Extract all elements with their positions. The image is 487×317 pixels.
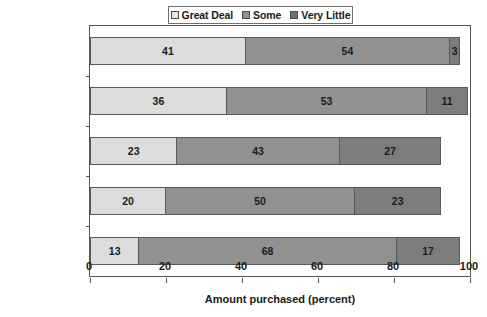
bar-value-label: 3 (452, 45, 458, 57)
x-axis-tick (166, 278, 167, 283)
bar-row-fl-distributor: 365311 (90, 87, 467, 115)
stacked-bar-chart-figure: Great Deal Some Very Little 415433653112… (0, 0, 487, 317)
x-axis-tick (394, 278, 395, 283)
bar-segment-golf-supt-very-little: 17 (396, 237, 461, 265)
x-axis-title: Amount purchased (percent) (89, 293, 471, 305)
legend-swatch-great-deal (171, 11, 179, 19)
legend-item-very-little: Very Little (290, 9, 350, 21)
bar-row-ca-grower: 234327 (90, 137, 440, 165)
legend-item-great-deal: Great Deal (171, 9, 234, 21)
x-axis-tick-label: 0 (86, 260, 92, 272)
legend-swatch-some (242, 11, 250, 19)
legend-label-great-deal: Great Deal (182, 9, 234, 21)
plot-inner: 41543365311234327205023136817 (90, 26, 470, 276)
x-axis-tick-label: 60 (311, 260, 323, 272)
bar-row-golf-supt: 136817 (90, 237, 459, 265)
y-axis-tick (86, 126, 90, 127)
bar-segment-golf-supt-great-deal: 13 (90, 237, 139, 265)
legend-label-very-little: Very Little (301, 9, 350, 21)
bar-segment-fl-distributor-very-little: 11 (426, 87, 468, 115)
bar-segment-fl-grower-very-little: 23 (354, 187, 441, 215)
y-axis-tick (86, 226, 90, 227)
x-axis-tick (470, 278, 471, 283)
bar-segment-ca-pca-some: 54 (245, 37, 450, 65)
legend-label-some: Some (253, 9, 281, 21)
bar-row-fl-grower: 205023 (90, 187, 440, 215)
bar-segment-ca-pca-great-deal: 41 (90, 37, 246, 65)
bar-segment-ca-grower-great-deal: 23 (90, 137, 177, 165)
x-axis-tick (242, 278, 243, 283)
bar-value-label: 53 (321, 95, 333, 107)
legend-item-some: Some (242, 9, 281, 21)
bar-value-label: 23 (128, 145, 140, 157)
bar-value-label: 23 (392, 195, 404, 207)
x-axis-tick-label: 100 (460, 260, 478, 272)
x-axis-tick-label: 80 (387, 260, 399, 272)
plot-area: 41543365311234327205023136817 (89, 25, 471, 277)
bar-value-label: 17 (422, 245, 434, 257)
x-axis-tick (90, 278, 91, 283)
bar-value-label: 20 (122, 195, 134, 207)
bar-value-label: 68 (262, 245, 274, 257)
bar-value-label: 11 (442, 95, 453, 107)
bar-value-label: 54 (342, 45, 354, 57)
bar-value-label: 50 (254, 195, 266, 207)
bar-segment-ca-grower-very-little: 27 (339, 137, 442, 165)
legend-swatch-very-little (290, 11, 298, 19)
bar-segment-fl-grower-great-deal: 20 (90, 187, 166, 215)
bar-segment-fl-distributor-great-deal: 36 (90, 87, 227, 115)
bar-value-label: 27 (384, 145, 396, 157)
bar-segment-fl-distributor-some: 53 (226, 87, 427, 115)
y-axis-tick (86, 76, 90, 77)
y-axis-tick (86, 176, 90, 177)
bar-segment-ca-pca-very-little: 3 (449, 37, 460, 65)
bar-segment-fl-grower-some: 50 (165, 187, 355, 215)
bar-segment-ca-grower-some: 43 (176, 137, 339, 165)
bar-value-label: 41 (162, 45, 174, 57)
bar-segment-golf-supt-some: 68 (138, 237, 396, 265)
x-axis-tick (318, 278, 319, 283)
bar-row-ca-pca: 41543 (90, 37, 459, 65)
bar-value-label: 36 (153, 95, 165, 107)
x-axis-tick-label: 20 (159, 260, 171, 272)
x-axis-tick-label: 40 (235, 260, 247, 272)
bar-value-label: 13 (109, 245, 121, 257)
bar-value-label: 43 (252, 145, 264, 157)
chart-legend: Great Deal Some Very Little (168, 6, 353, 24)
